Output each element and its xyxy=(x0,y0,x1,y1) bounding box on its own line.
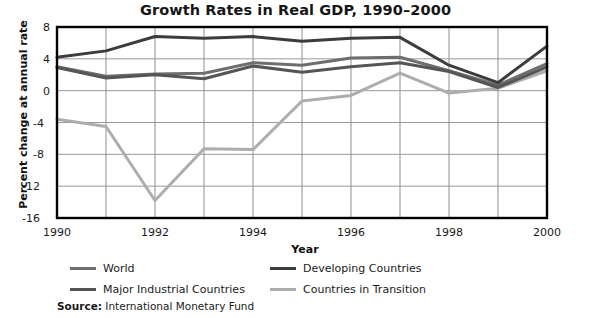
legend-item-countries-in-transition[interactable]: Countries in Transition xyxy=(270,281,426,297)
legend-swatch-major-industrial-countries xyxy=(70,288,96,291)
chart-figure: Growth Rates in Real GDP, 1990–2000 Perc… xyxy=(0,0,591,318)
source-note: Source: International Monetary Fund xyxy=(57,300,254,312)
legend-item-world[interactable]: World xyxy=(70,260,135,276)
legend-label-major-industrial-countries: Major Industrial Countries xyxy=(103,283,245,296)
source-label: Source: xyxy=(57,300,102,312)
source-value: International Monetary Fund xyxy=(105,300,254,312)
gridlines xyxy=(57,27,547,218)
legend-swatch-world xyxy=(70,267,96,270)
legend-item-developing-countries[interactable]: Developing Countries xyxy=(270,260,422,276)
legend-item-major-industrial-countries[interactable]: Major Industrial Countries xyxy=(70,281,245,297)
legend-label-world: World xyxy=(103,262,135,275)
legend-swatch-developing-countries xyxy=(270,267,296,270)
legend-swatch-countries-in-transition xyxy=(270,288,296,291)
chart-legend: World Developing Countries Major Industr… xyxy=(0,258,591,300)
legend-label-developing-countries: Developing Countries xyxy=(303,262,422,275)
legend-label-countries-in-transition: Countries in Transition xyxy=(303,283,426,296)
